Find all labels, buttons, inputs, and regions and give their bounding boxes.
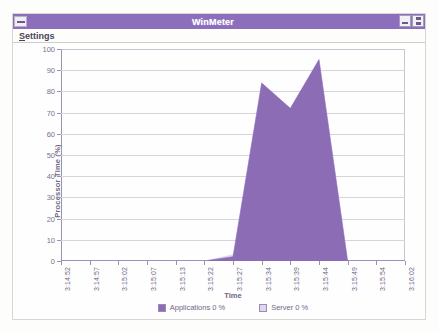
- x-tick-label: 3:15:27: [236, 267, 243, 291]
- x-tick-mark: [405, 261, 406, 265]
- x-tick-label: 3:15:44: [322, 267, 329, 291]
- window-title: WinMeter: [27, 17, 425, 27]
- x-tick-label: 3:15:54: [379, 267, 386, 291]
- x-tick-mark: [262, 261, 263, 265]
- x-tick-mark: [118, 261, 119, 265]
- menu-item-settings-label: ettings: [25, 31, 55, 41]
- chart-legend: Applications 0 %Server 0 %: [61, 303, 405, 312]
- legend-label: Applications 0 %: [170, 303, 225, 312]
- x-tick-label: 3:15:34: [265, 267, 272, 291]
- y-tick-label: 90: [47, 66, 55, 75]
- system-menu-icon[interactable]: [14, 16, 27, 27]
- x-tick-label: 3:15:49: [351, 267, 358, 291]
- x-tick-mark: [290, 261, 291, 265]
- chart-canvas: Processor Time (%) 100908070605040302010…: [13, 43, 425, 319]
- y-tick-label: 50: [47, 151, 55, 160]
- x-tick-mark: [376, 261, 377, 265]
- x-tick-mark: [204, 261, 205, 265]
- series-layer: [61, 49, 405, 261]
- menu-item-settings[interactable]: Settings: [17, 31, 57, 41]
- x-tick-label: 3:15:07: [150, 267, 157, 291]
- series-area-applications: [61, 60, 405, 261]
- winmeter-window: WinMeter Settings Processor Time (%) 100…: [12, 13, 426, 320]
- y-tick-label: 60: [47, 129, 55, 138]
- window-controls: [399, 15, 424, 27]
- x-tick-mark: [61, 261, 62, 265]
- legend-entry-applications[interactable]: Applications 0 %: [158, 303, 225, 312]
- legend-entry-server[interactable]: Server 0 %: [259, 303, 308, 312]
- y-tick-label: 10: [47, 235, 55, 244]
- x-tick-label: 3:14:52: [64, 267, 71, 291]
- y-tick-label: 100: [42, 45, 55, 54]
- window-titlebar[interactable]: WinMeter: [13, 14, 425, 29]
- x-tick-label: 3:15:13: [179, 267, 186, 291]
- x-tick-mark: [147, 261, 148, 265]
- y-tick-label: 30: [47, 193, 55, 202]
- menu-bar: Settings: [13, 29, 425, 43]
- legend-label: Server 0 %: [271, 303, 308, 312]
- minimize-icon[interactable]: [399, 15, 411, 27]
- y-tick-label: 0: [51, 257, 55, 266]
- x-tick-mark: [233, 261, 234, 265]
- x-tick-label: 3:14:57: [93, 267, 100, 291]
- legend-swatch-icon: [158, 304, 166, 312]
- y-tick-label: 40: [47, 172, 55, 181]
- y-tick-label: 80: [47, 87, 55, 96]
- plot-area: 1009080706050403020100 3:14:523:14:573:1…: [61, 49, 405, 261]
- x-tick-mark: [319, 261, 320, 265]
- x-tick-mark: [348, 261, 349, 265]
- y-tick-label: 70: [47, 108, 55, 117]
- x-tick-mark: [90, 261, 91, 265]
- restore-icon[interactable]: [412, 15, 424, 27]
- y-tick-label: 20: [47, 214, 55, 223]
- x-axis-title: Time: [61, 291, 405, 300]
- x-tick-label: 3:16:02: [408, 267, 415, 291]
- legend-swatch-icon: [259, 304, 267, 312]
- x-tick-label: 3:15:22: [207, 267, 214, 291]
- x-tick-label: 3:15:39: [293, 267, 300, 291]
- x-tick-mark: [176, 261, 177, 265]
- x-tick-label: 3:15:02: [121, 267, 128, 291]
- screenshot-root: WinMeter Settings Processor Time (%) 100…: [0, 0, 438, 331]
